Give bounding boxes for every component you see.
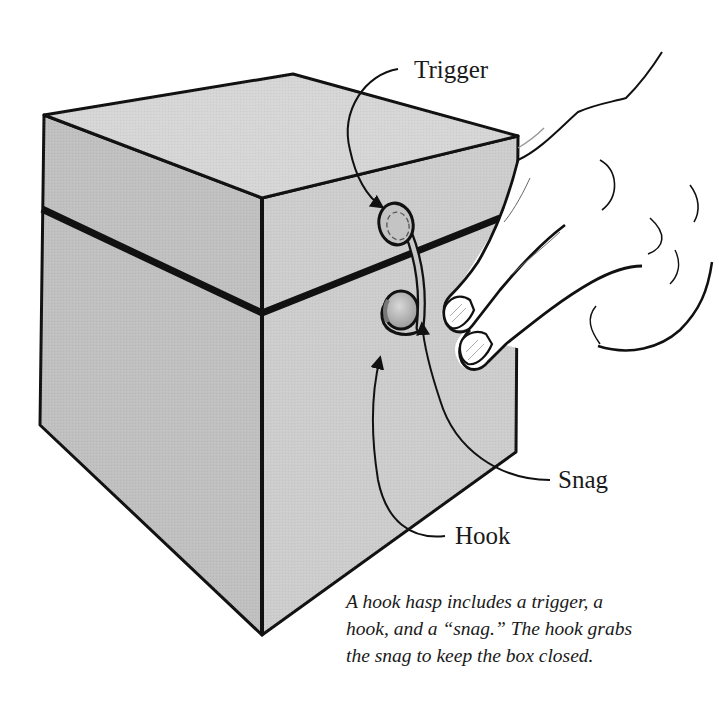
caption-line: the snag to keep the box closed. xyxy=(346,642,706,669)
figure-caption: A hook hasp includes a trigger, a hook, … xyxy=(346,588,706,669)
hook-hasp-diagram: Trigger Snag Hook A hook hasp includes a… xyxy=(0,0,719,704)
snag-label: Snag xyxy=(558,467,608,492)
hook-label: Hook xyxy=(455,523,511,548)
caption-line: hook, and a “snag.” The hook grabs xyxy=(346,615,706,642)
box xyxy=(40,74,518,635)
caption-line: A hook hasp includes a trigger, a xyxy=(346,588,706,615)
trigger-label: Trigger xyxy=(414,57,488,82)
